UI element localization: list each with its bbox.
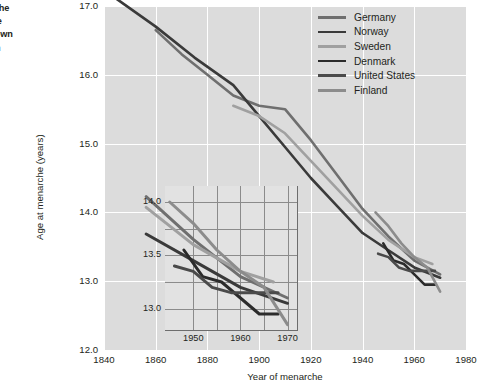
caption-line-4: oted from xyxy=(0,43,76,55)
inset-y-tick-label: 14.0 xyxy=(129,196,161,206)
legend-label-germany: Germany xyxy=(354,12,396,23)
caption-line-1: menarche xyxy=(0,3,9,13)
inset-series-lines xyxy=(165,186,297,330)
x-tick-label: 1980 xyxy=(446,354,478,365)
x-tick-label: 1840 xyxy=(84,354,124,365)
x-tick-label: 1880 xyxy=(187,354,227,365)
series-line-finland xyxy=(376,212,441,291)
chart-figure: menarche over the e is known oted from A… xyxy=(0,0,478,388)
gridline-vertical xyxy=(466,6,467,350)
legend-swatch-norway xyxy=(318,31,346,34)
y-tick-label: 14.0 xyxy=(64,206,98,217)
x-tick-label: 1940 xyxy=(343,354,383,365)
legend-swatch-sweden xyxy=(318,45,346,48)
legend-item[interactable]: United States xyxy=(318,68,415,83)
legend-item[interactable]: Norway xyxy=(318,25,415,40)
legend-item[interactable]: Denmark xyxy=(318,54,415,69)
x-axis-title: Year of menarche xyxy=(104,371,466,382)
x-tick-label: 1920 xyxy=(291,354,331,365)
legend-label-united-states: United States xyxy=(354,70,415,81)
legend-item[interactable]: Sweden xyxy=(318,39,415,54)
legend-swatch-united-states xyxy=(318,74,346,77)
legend-item[interactable]: Finland xyxy=(318,83,415,98)
legend-label-sweden: Sweden xyxy=(354,41,391,52)
inset-y-tick-label: 13.5 xyxy=(129,249,161,259)
y-tick-label: 13.0 xyxy=(64,275,98,286)
inset-x-tick-label: 1970 xyxy=(268,333,308,343)
caption-line-2: over the xyxy=(0,16,2,26)
y-tick-label: 15.0 xyxy=(64,138,98,149)
legend-label-norway: Norway xyxy=(354,26,389,37)
caption-line-3: e is known xyxy=(0,29,13,39)
inset-panel xyxy=(165,186,298,331)
legend-label-denmark: Denmark xyxy=(354,56,395,67)
y-tick-label: 16.0 xyxy=(64,69,98,80)
inset-y-tick-label: 13.0 xyxy=(129,303,161,313)
y-tick-label: 17.0 xyxy=(64,0,98,11)
inset-x-tick-label: 1950 xyxy=(173,333,213,343)
x-tick-label: 1960 xyxy=(394,354,434,365)
y-axis-title: Age at menarche (years) xyxy=(34,134,45,240)
inset-x-tick-label: 1960 xyxy=(220,333,260,343)
x-tick-label: 1860 xyxy=(136,354,176,365)
legend-swatch-finland xyxy=(318,89,346,92)
legend-label-finland: Finland xyxy=(354,85,387,96)
legend-swatch-germany xyxy=(318,16,346,19)
x-tick-label: 1900 xyxy=(239,354,279,365)
legend-swatch-denmark xyxy=(318,60,346,63)
legend: Germany Norway Sweden Denmark United Sta… xyxy=(318,10,415,98)
gridline-horizontal xyxy=(104,350,466,351)
legend-item[interactable]: Germany xyxy=(318,10,415,25)
